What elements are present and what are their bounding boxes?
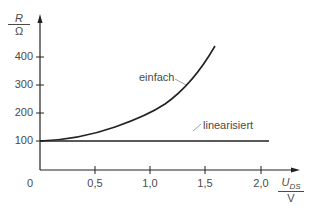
x-axis-unit: V <box>278 192 304 204</box>
x-tick-1-0: 1,0 <box>135 177 165 189</box>
y-axis-unit: Ω <box>8 25 30 37</box>
x-axis-arrow-icon <box>291 168 300 173</box>
x-tick-0-5: 0,5 <box>80 177 110 189</box>
y-tick-400: 400 <box>3 50 33 62</box>
x-tick-0: 0 <box>15 177 45 189</box>
y-tick-200: 200 <box>3 106 33 118</box>
label-linearisiert: linearisiert <box>203 119 253 131</box>
y-tick-300: 300 <box>3 78 33 90</box>
einfach-leader <box>175 79 186 85</box>
y-axis-arrow-icon <box>38 14 43 23</box>
linearisiert-leader <box>193 124 201 131</box>
x-tick-1-5: 1,5 <box>190 177 220 189</box>
x-axis-subscript: DS <box>289 182 300 191</box>
label-einfach: einfach <box>139 71 174 83</box>
y-axis-label: R Ω <box>8 12 30 37</box>
series-einfach <box>40 46 215 141</box>
x-tick-2-0: 2,0 <box>246 177 276 189</box>
x-axis-quantity: UDS <box>278 176 304 192</box>
y-tick-100: 100 <box>3 134 33 146</box>
y-axis-quantity: R <box>8 12 30 25</box>
x-axis-label: UDS V <box>278 176 304 204</box>
